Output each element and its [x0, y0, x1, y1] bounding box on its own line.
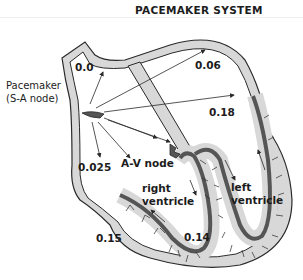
pacemaker-label-line2: (S-A node): [6, 93, 61, 106]
pacemaker-label: Pacemaker (S-A node): [6, 80, 61, 105]
timing-sa-node: 0.0: [75, 62, 94, 73]
timing-septum-apex: 0.14: [184, 232, 210, 243]
pacemaker-diagram: PACEMAKER SYSTEM: [0, 0, 303, 280]
av-node-label: A-V node: [121, 158, 174, 169]
left-ventricle-line1: left: [231, 181, 283, 194]
timing-left-atrium: 0.06: [195, 60, 221, 71]
right-ventricle-line2: ventricle: [142, 195, 194, 208]
pacemaker-label-line1: Pacemaker: [6, 80, 61, 93]
left-ventricle-line2: ventricle: [231, 194, 283, 207]
heart-illustration: [0, 0, 303, 280]
timing-right-atrium: 0.025: [78, 162, 111, 173]
left-ventricle-label: left ventricle: [231, 181, 283, 207]
timing-left-ventricle-wall: 0.18: [209, 107, 235, 118]
timing-right-ventricle-base: 0.15: [96, 233, 122, 244]
right-ventricle-line1: right: [142, 182, 194, 195]
right-ventricle-label: right ventricle: [142, 182, 194, 208]
